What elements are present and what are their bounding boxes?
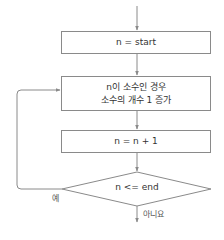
check-prime-line-2: 소수의 개수 1 증가 (101, 94, 171, 107)
init-label: n = start (116, 36, 156, 49)
init-box: n = start (61, 31, 211, 54)
yes-label: 예 (52, 192, 59, 203)
no-label: 아니요 (143, 208, 164, 219)
loop-back-arrow (17, 90, 62, 189)
check-prime-line-1: n이 소수인 경우 (106, 81, 165, 94)
check-prime-box: n이 소수인 경우 소수의 개수 1 증가 (61, 76, 211, 111)
increment-box: n = n + 1 (61, 130, 211, 153)
increment-label: n = n + 1 (114, 135, 158, 148)
condition-label: n <= end (100, 182, 174, 192)
